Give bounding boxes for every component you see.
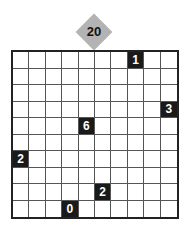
grid-cell[interactable] <box>79 201 95 218</box>
grid-cell[interactable] <box>29 118 45 135</box>
grid-cell[interactable] <box>29 85 45 102</box>
grid-cell[interactable] <box>79 168 95 185</box>
grid-cell[interactable] <box>13 69 29 86</box>
grid-cell[interactable] <box>46 135 62 152</box>
grid-cell[interactable] <box>79 102 95 119</box>
clue-cell[interactable]: 0 <box>62 201 78 218</box>
grid-cell[interactable] <box>111 102 127 119</box>
grid-cell[interactable] <box>128 168 144 185</box>
grid-cell[interactable] <box>62 85 78 102</box>
grid-cell[interactable] <box>161 201 177 218</box>
grid-cell[interactable] <box>161 135 177 152</box>
clue-cell[interactable]: 2 <box>13 151 29 168</box>
grid-cell[interactable] <box>161 69 177 86</box>
grid-cell[interactable] <box>111 151 127 168</box>
grid-cell[interactable] <box>29 151 45 168</box>
grid-cell[interactable] <box>62 52 78 69</box>
grid-cell[interactable] <box>46 52 62 69</box>
grid-cell[interactable] <box>62 69 78 86</box>
grid-cell[interactable] <box>128 135 144 152</box>
grid-cell[interactable] <box>144 102 160 119</box>
grid-cell[interactable] <box>111 69 127 86</box>
grid-cell[interactable] <box>111 85 127 102</box>
grid-cell[interactable] <box>111 201 127 218</box>
grid-cell[interactable] <box>95 151 111 168</box>
grid-cell[interactable] <box>29 168 45 185</box>
grid-cell[interactable] <box>95 118 111 135</box>
grid-cell[interactable] <box>144 201 160 218</box>
grid-cell[interactable] <box>46 102 62 119</box>
grid-cell[interactable] <box>13 201 29 218</box>
clue-cell[interactable]: 2 <box>95 184 111 201</box>
grid-cell[interactable] <box>29 52 45 69</box>
grid-cell[interactable] <box>95 69 111 86</box>
grid-cell[interactable] <box>62 118 78 135</box>
grid-cell[interactable] <box>161 85 177 102</box>
grid-cell[interactable] <box>13 102 29 119</box>
grid-cell[interactable] <box>95 85 111 102</box>
grid-cell[interactable] <box>128 201 144 218</box>
grid-cell[interactable] <box>95 102 111 119</box>
grid-cell[interactable] <box>29 69 45 86</box>
grid-cell[interactable] <box>62 151 78 168</box>
grid-cell[interactable] <box>161 184 177 201</box>
grid-cell[interactable] <box>161 118 177 135</box>
grid-cell[interactable] <box>46 168 62 185</box>
grid-cell[interactable] <box>95 201 111 218</box>
grid-cell[interactable] <box>144 69 160 86</box>
grid-cell[interactable] <box>79 135 95 152</box>
grid-cell[interactable] <box>79 69 95 86</box>
grid-cell[interactable] <box>46 69 62 86</box>
grid-cell[interactable] <box>62 135 78 152</box>
clue-cell[interactable]: 3 <box>161 102 177 119</box>
grid-cell[interactable] <box>62 168 78 185</box>
grid-cell[interactable] <box>144 168 160 185</box>
grid-cell[interactable] <box>95 168 111 185</box>
grid-cell[interactable] <box>46 118 62 135</box>
grid-cell[interactable] <box>144 118 160 135</box>
grid-cell[interactable] <box>62 102 78 119</box>
grid-cell[interactable] <box>29 201 45 218</box>
grid-cell[interactable] <box>46 201 62 218</box>
grid-cell[interactable] <box>29 184 45 201</box>
grid-cell[interactable] <box>128 151 144 168</box>
grid-cell[interactable] <box>161 151 177 168</box>
grid-cell[interactable] <box>79 85 95 102</box>
grid-cell[interactable] <box>128 102 144 119</box>
grid-cell[interactable] <box>29 135 45 152</box>
grid-cell[interactable] <box>161 52 177 69</box>
grid-cell[interactable] <box>95 52 111 69</box>
grid-cell[interactable] <box>13 118 29 135</box>
grid-cell[interactable] <box>95 135 111 152</box>
grid-cell[interactable] <box>111 168 127 185</box>
grid-cell[interactable] <box>144 151 160 168</box>
grid-cell[interactable] <box>46 184 62 201</box>
clue-cell[interactable]: 1 <box>128 52 144 69</box>
grid-cell[interactable] <box>128 118 144 135</box>
grid-cell[interactable] <box>13 85 29 102</box>
grid-cell[interactable] <box>128 85 144 102</box>
grid-cell[interactable] <box>161 168 177 185</box>
grid-cell[interactable] <box>79 52 95 69</box>
grid-cell[interactable] <box>144 184 160 201</box>
grid-cell[interactable] <box>13 168 29 185</box>
grid-cell[interactable] <box>128 69 144 86</box>
grid-cell[interactable] <box>111 135 127 152</box>
grid-cell[interactable] <box>111 52 127 69</box>
grid-cell[interactable] <box>128 184 144 201</box>
grid-cell[interactable] <box>62 184 78 201</box>
grid-cell[interactable] <box>144 135 160 152</box>
grid-cell[interactable] <box>13 135 29 152</box>
grid-cell[interactable] <box>111 118 127 135</box>
grid-cell[interactable] <box>13 52 29 69</box>
grid-cell[interactable] <box>79 184 95 201</box>
grid-cell[interactable] <box>13 184 29 201</box>
grid-cell[interactable] <box>79 151 95 168</box>
clue-cell[interactable]: 6 <box>79 118 95 135</box>
grid-cell[interactable] <box>46 85 62 102</box>
grid-cell[interactable] <box>144 85 160 102</box>
grid-cell[interactable] <box>46 151 62 168</box>
grid-cell[interactable] <box>29 102 45 119</box>
grid-cell[interactable] <box>111 184 127 201</box>
grid-cell[interactable] <box>144 52 160 69</box>
